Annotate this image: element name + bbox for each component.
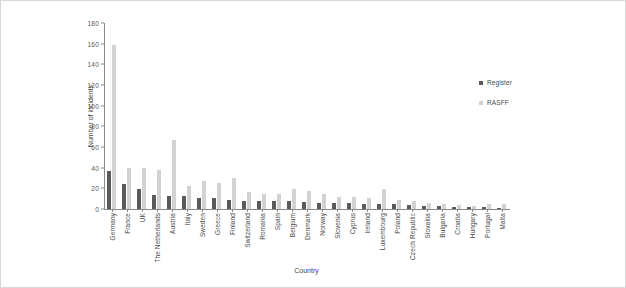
x-axis-tick-mark bbox=[502, 209, 503, 212]
bar-register bbox=[107, 171, 111, 209]
x-axis-tick-label-text: Finland bbox=[228, 213, 235, 235]
x-axis-tick-mark bbox=[202, 209, 203, 212]
x-axis-tick-mark bbox=[412, 209, 413, 212]
bar-group bbox=[359, 23, 374, 209]
y-axis-tick-label: 120 bbox=[88, 82, 99, 89]
bar-register bbox=[302, 202, 306, 209]
x-axis-tick-label: Malta bbox=[494, 213, 509, 265]
x-axis-tick-label-text: Romania bbox=[258, 213, 265, 240]
x-axis-tick-mark bbox=[322, 209, 323, 212]
x-axis-tick-mark bbox=[337, 209, 338, 212]
bar-register bbox=[167, 196, 171, 209]
x-axis-tick-label: UK bbox=[134, 213, 149, 265]
chart-legend: RegisterRASFF bbox=[479, 79, 569, 119]
bar-group bbox=[434, 23, 449, 209]
plot-area: 020406080100120140160180 bbox=[104, 23, 509, 209]
bar-group bbox=[119, 23, 134, 209]
bar-rasff bbox=[382, 189, 386, 209]
x-axis-tick-label-text: Cyprus bbox=[348, 213, 355, 234]
x-axis-tick-label: France bbox=[119, 213, 134, 265]
bar-rasff bbox=[127, 168, 131, 209]
x-axis-tick-label-text: Hungary bbox=[468, 213, 475, 238]
bar-register bbox=[377, 204, 381, 209]
x-axis-tick-label: Belgium bbox=[284, 213, 299, 265]
x-axis-tick-label-text: Slovakia bbox=[423, 213, 430, 238]
x-axis-tick-mark bbox=[157, 209, 158, 212]
bar-register bbox=[437, 206, 441, 209]
x-axis-tick-label: Portugal bbox=[479, 213, 494, 265]
x-axis-title: Country bbox=[104, 267, 509, 274]
bar-register bbox=[212, 198, 216, 209]
x-axis-tick-label: Czech Republic bbox=[404, 213, 419, 265]
y-axis-tick-label: 20 bbox=[91, 185, 99, 192]
legend-label: RASFF bbox=[487, 99, 509, 106]
bar-group bbox=[104, 23, 119, 209]
bar-register bbox=[287, 201, 291, 209]
x-axis-tick-mark bbox=[142, 209, 143, 212]
x-axis-tick-label: Luxembourg bbox=[374, 213, 389, 265]
x-axis-tick-label-text: Greece bbox=[213, 213, 220, 235]
y-axis-title: Number of incidents bbox=[87, 23, 94, 209]
bar-rasff bbox=[427, 203, 431, 209]
bar-group bbox=[254, 23, 269, 209]
x-axis-tick-label: Slovakia bbox=[419, 213, 434, 265]
y-axis-tick-label: 160 bbox=[88, 40, 99, 47]
x-axis-tick-label: Germany bbox=[104, 213, 119, 265]
bar-group bbox=[209, 23, 224, 209]
x-axis-tick-label-text: Denmark bbox=[303, 213, 310, 240]
bar-rasff bbox=[487, 204, 491, 209]
x-axis-tick-mark bbox=[397, 209, 398, 212]
x-axis-tick-mark bbox=[247, 209, 248, 212]
bar-register bbox=[242, 201, 246, 209]
x-axis-tick-label: Spain bbox=[269, 213, 284, 265]
x-axis-tick-label-text: Croatia bbox=[453, 213, 460, 235]
x-axis-tick-label-text: Slovenia bbox=[333, 213, 340, 239]
x-axis-tick-label-text: Germany bbox=[108, 213, 115, 240]
bar-group bbox=[239, 23, 254, 209]
bar-register bbox=[257, 201, 261, 209]
bar-rasff bbox=[217, 183, 221, 209]
y-axis-tick-label: 180 bbox=[88, 20, 99, 27]
x-axis-tick-mark bbox=[232, 209, 233, 212]
x-axis-tick-mark bbox=[172, 209, 173, 212]
bar-rasff bbox=[352, 197, 356, 209]
y-axis-tick-label: 60 bbox=[91, 144, 99, 151]
bar-register bbox=[407, 205, 411, 209]
x-axis-tick-label-text: Spain bbox=[273, 213, 280, 230]
y-axis-tick-label: 0 bbox=[95, 206, 99, 213]
x-axis-tick-mark bbox=[277, 209, 278, 212]
bar-group bbox=[329, 23, 344, 209]
bar-series-container bbox=[104, 23, 509, 209]
bar-register bbox=[272, 201, 276, 209]
x-axis-tick-label: Bulgaria bbox=[434, 213, 449, 265]
bar-rasff bbox=[172, 140, 176, 209]
x-axis-tick-label-text: Switzerland bbox=[243, 213, 250, 248]
bar-rasff bbox=[232, 178, 236, 209]
bar-rasff bbox=[457, 205, 461, 209]
x-axis-tick-label-text: Austria bbox=[168, 213, 175, 234]
bar-group bbox=[299, 23, 314, 209]
x-axis-tick-mark bbox=[472, 209, 473, 212]
bar-group bbox=[374, 23, 389, 209]
legend-swatch-icon bbox=[479, 101, 483, 105]
x-axis-tick-label: Poland bbox=[389, 213, 404, 265]
x-axis-tick-mark bbox=[457, 209, 458, 212]
x-axis-tick-label-text: UK bbox=[138, 213, 145, 222]
x-axis-tick-label-text: Bulgaria bbox=[438, 213, 445, 238]
bar-rasff bbox=[502, 204, 506, 209]
bar-rasff bbox=[412, 201, 416, 209]
bar-register bbox=[452, 207, 456, 209]
x-axis-tick-label: Sweden bbox=[194, 213, 209, 265]
bar-register bbox=[152, 195, 156, 209]
x-axis-tick-mark bbox=[307, 209, 308, 212]
bar-register bbox=[332, 203, 336, 209]
x-axis-tick-label-text: Sweden bbox=[198, 213, 205, 237]
bar-group bbox=[419, 23, 434, 209]
bar-register bbox=[362, 204, 366, 209]
bar-group bbox=[134, 23, 149, 209]
legend-label: Register bbox=[487, 79, 512, 86]
bar-group bbox=[179, 23, 194, 209]
bar-rasff bbox=[277, 194, 281, 210]
bar-rasff bbox=[367, 198, 371, 209]
x-axis-tick-mark bbox=[382, 209, 383, 212]
